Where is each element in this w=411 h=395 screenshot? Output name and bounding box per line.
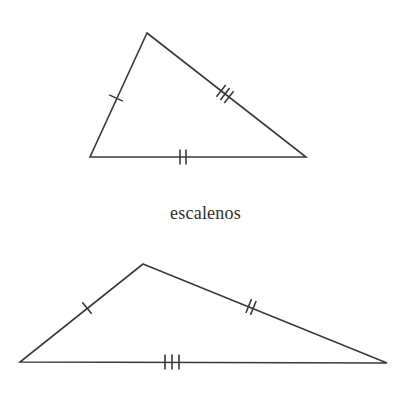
geometry-diagram xyxy=(0,0,411,395)
figure-background xyxy=(0,0,411,395)
figure-root: escalenos xyxy=(0,0,411,395)
